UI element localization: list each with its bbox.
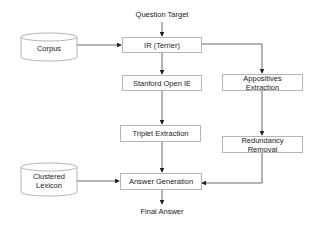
redundancy-removal-node: Redundancy Removal [222, 136, 303, 153]
appositives-extraction-node: Appositives Extraction [222, 74, 303, 91]
appositives-line1: Appositives [243, 74, 281, 83]
connector-layer [0, 0, 321, 228]
clustered-lexicon-line2: Lexicon [21, 181, 77, 190]
question-target-label: Question Target [122, 10, 202, 19]
final-answer-label: Final Answer [122, 207, 202, 216]
clustered-lexicon-label: Clustered Lexicon [21, 172, 77, 190]
triplet-extraction-node: Triplet Extraction [120, 125, 201, 142]
redundancy-line2: Removal [248, 145, 278, 154]
redundancy-line1: Redundancy [241, 136, 283, 145]
stanford-open-ie-node: Stanford Open IE [122, 75, 202, 91]
appositives-line2: Extraction [246, 83, 279, 92]
answer-generation-node: Answer Generation [120, 173, 202, 190]
clustered-lexicon-line1: Clustered [21, 172, 77, 181]
ir-terrier-node: IR (Terrier) [122, 37, 202, 53]
corpus-label: Corpus [21, 44, 77, 53]
